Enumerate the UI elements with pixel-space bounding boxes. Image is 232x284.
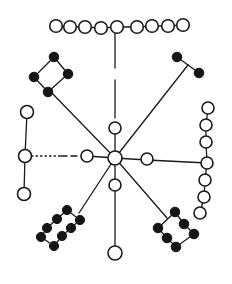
inner-node-0 xyxy=(109,122,121,134)
upper-left-ring-node-3 xyxy=(29,72,39,82)
upper-left-ring-node-0 xyxy=(49,52,59,62)
lower-right-ring-node-5 xyxy=(153,223,163,233)
lower-right-ring-node-3 xyxy=(171,242,181,252)
top-chain-node-5 xyxy=(131,21,144,34)
spoke-right xyxy=(147,160,207,163)
ladder-node-6 xyxy=(66,223,75,232)
ladder-node-0 xyxy=(62,205,71,214)
left-chain-node-2 xyxy=(18,188,31,201)
right-chain-node-0 xyxy=(202,102,214,114)
ladder-node-3 xyxy=(36,232,45,241)
top-chain-node-8 xyxy=(177,19,190,32)
right-chain-node-5 xyxy=(198,191,210,203)
ladder-node-1 xyxy=(52,214,61,223)
inner-node-3 xyxy=(109,179,121,191)
spoke-down-right xyxy=(115,158,167,218)
upper-left-ring-node-1 xyxy=(63,69,73,79)
hub-node xyxy=(108,151,122,165)
top-chain-node-4 xyxy=(111,21,124,34)
right-chain-node-4 xyxy=(199,174,211,186)
lower-right-ring-node-1 xyxy=(179,219,189,229)
spoke-up-right xyxy=(115,65,188,158)
inner-node-2 xyxy=(141,153,153,165)
ladder-node-2 xyxy=(42,223,51,232)
spoke-up-left xyxy=(49,90,115,158)
diagram-canvas xyxy=(0,0,232,284)
ladder-node-4 xyxy=(49,241,58,250)
ladder-node-7 xyxy=(75,215,84,224)
right-chain-node-6 xyxy=(194,207,206,219)
top-chain-node-2 xyxy=(79,21,92,34)
left-chain-node-0 xyxy=(21,106,34,119)
lower-right-ring-node-4 xyxy=(162,233,172,243)
right-chain-node-3 xyxy=(201,157,213,169)
right-chain-node-1 xyxy=(200,119,212,131)
lower-right-ring-node-0 xyxy=(170,207,180,217)
top-chain-node-3 xyxy=(95,22,108,35)
top-chain-node-7 xyxy=(162,20,175,33)
upper-right-pair-node-1 xyxy=(194,68,204,78)
upper-right-pair-node-0 xyxy=(172,52,182,62)
top-chain-node-6 xyxy=(146,20,159,33)
lower-right-ring-node-2 xyxy=(189,229,199,239)
ladder-node-5 xyxy=(57,231,66,240)
left-chain-node-1 xyxy=(19,150,32,163)
upper-left-ring-node-2 xyxy=(43,87,53,97)
top-chain-node-0 xyxy=(50,20,63,33)
network-diagram xyxy=(0,0,232,284)
top-chain-node-1 xyxy=(64,21,77,34)
right-chain-node-2 xyxy=(200,136,212,148)
nodes-layer xyxy=(18,19,215,260)
inner-node-1 xyxy=(81,150,93,162)
inner-node-4 xyxy=(108,246,122,260)
